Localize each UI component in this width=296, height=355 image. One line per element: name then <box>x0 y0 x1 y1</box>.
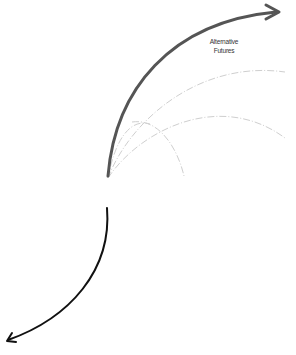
alternative-path-outer <box>108 70 285 178</box>
alternative-path-drop <box>132 122 184 176</box>
label-line-2: Futures <box>196 46 252 55</box>
alternative-futures-label: Alternative Futures <box>196 37 252 55</box>
label-line-1: Alternative <box>196 37 252 46</box>
alternative-path-inner <box>108 123 150 178</box>
past-arrow <box>7 208 107 342</box>
alternative-paths <box>108 70 285 178</box>
